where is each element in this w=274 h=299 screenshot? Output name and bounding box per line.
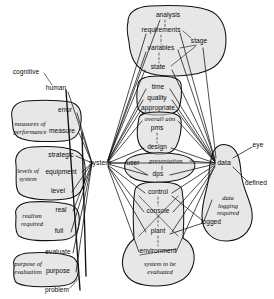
node-overall-aim[interactable]: overall aim [145, 115, 176, 122]
edge-system-appropriate [108, 110, 141, 162]
node-quality[interactable]: quality [147, 94, 166, 101]
node-analysis[interactable]: analysis [156, 11, 180, 18]
node-data[interactable]: data [217, 159, 231, 166]
node-cognitive[interactable]: cognitive [13, 68, 39, 75]
node-logged[interactable]: logged [201, 218, 221, 225]
group-label-measures-of-performance: measures of performance [13, 120, 46, 135]
node-human[interactable]: human [46, 84, 66, 91]
node-purpose[interactable]: purpose [46, 267, 70, 274]
group-label-realism-required: realism required [21, 212, 43, 227]
diagram-canvas [0, 0, 274, 299]
node-pms[interactable]: pms [151, 124, 164, 131]
node-appropriate[interactable]: appropriate [141, 104, 175, 111]
node-control[interactable]: control [148, 188, 168, 195]
node-error[interactable]: error [58, 106, 72, 113]
node-time[interactable]: time [152, 83, 165, 90]
concept-diagram: cognitive human error measure strategic … [0, 0, 274, 299]
edge-measure-spine [82, 133, 86, 276]
node-evaluate[interactable]: evaluate [45, 248, 70, 255]
blob-group-layer [12, 6, 253, 287]
node-requirements[interactable]: requirements [141, 26, 180, 33]
node-console[interactable]: console [146, 207, 169, 214]
node-defined[interactable]: defined [245, 179, 267, 186]
edge-cognitive-human [44, 73, 52, 85]
node-system[interactable]: system [89, 159, 111, 166]
node-strategic[interactable]: strategic [48, 151, 73, 158]
edge-system-state [108, 70, 145, 160]
node-design[interactable]: design [147, 143, 167, 150]
node-presentation[interactable]: presentation [149, 157, 182, 164]
group-label-data-logging-required: data logging required [217, 194, 239, 217]
node-eye[interactable]: eye [253, 141, 264, 148]
node-state[interactable]: state [151, 63, 166, 70]
node-full[interactable]: full [55, 227, 64, 234]
group-label-levels-of-system: levels of system [17, 167, 38, 182]
node-variables[interactable]: variables [148, 44, 175, 51]
edge-data-appropriate [176, 110, 215, 162]
node-dps[interactable]: dps [153, 170, 164, 177]
node-equipment[interactable]: equipment [45, 168, 76, 175]
group-label-system-to-be-evaluated: system to be evaluated [144, 260, 176, 275]
node-real[interactable]: real [55, 206, 66, 213]
node-environment[interactable]: environment [140, 247, 177, 254]
node-user[interactable]: user [126, 159, 139, 166]
node-level[interactable]: level [51, 187, 65, 194]
node-stage[interactable]: stage [191, 37, 207, 44]
node-problem[interactable]: problem [45, 286, 69, 293]
node-plant[interactable]: plant [151, 227, 166, 234]
node-measure[interactable]: measure [49, 127, 75, 134]
group-label-purpose-of-evaluation: purpose of evaluation [14, 260, 42, 275]
